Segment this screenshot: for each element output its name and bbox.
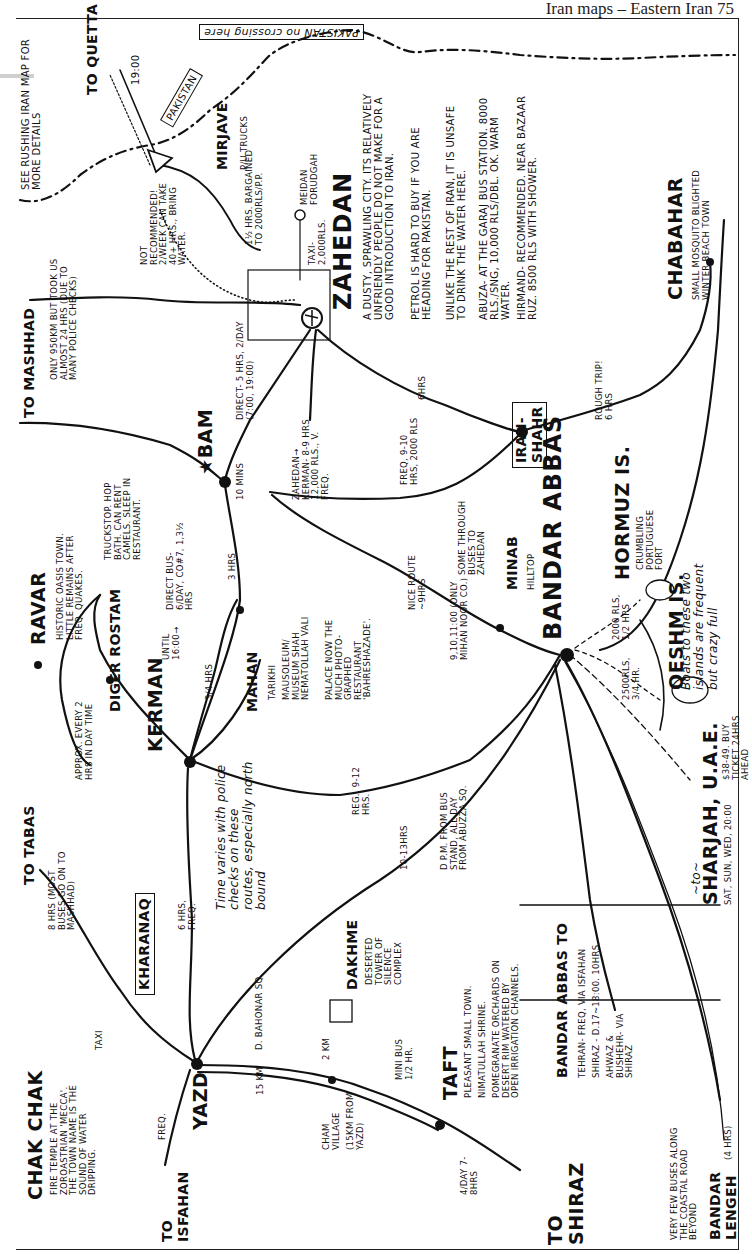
hormuz-label: HORMUZ IS. <box>612 446 633 580</box>
mashhad-note: ONLY 950KM BUT TOOK US ALMOST 24 HRS (DU… <box>50 250 79 380</box>
taft-label: TAFT <box>440 1046 461 1100</box>
town-dot-ravar <box>34 661 42 669</box>
bandar-times: 9,10,11:00 (ONLY MIHAN NOOR CO.) <box>450 570 469 660</box>
to-tabas-label: TO TABAS <box>22 805 38 885</box>
iranshahr-rough: ROUGH TRIP! 6 HRS <box>595 360 614 420</box>
sharjah-days: SAT, SUN, WED, 20:00 <box>724 804 734 905</box>
chak-chak-desc: FIRE TEMPLE AT THE ZOROASTRIAN 'MECCA'. … <box>50 1075 98 1195</box>
kerman-until: UNTIL 16:00→ <box>162 620 181 660</box>
border-post-icon <box>148 150 172 172</box>
bandar-box-shiraz: SHIRAZ - d.17~18:00. 10HRS. <box>592 942 602 1078</box>
iranshahr-6hrs: 6HRS <box>418 376 428 400</box>
town-dot-bandar-abbas <box>560 648 574 662</box>
bandar-box-tehran: TEHRAN- FREQ, VIA ISFAHAN <box>578 949 588 1078</box>
coastal-town: BANDAR LENGEH <box>708 1150 739 1240</box>
yazd-15km: 15 KM <box>256 1067 266 1095</box>
meidan-taxi: TAXI- 2,000RLS. <box>308 205 327 265</box>
kerman-mahan-time: 3/4 HRS <box>205 664 215 700</box>
dakhme-walk: 2 KM <box>322 1038 332 1060</box>
mahan-bam-time: 3 HRS <box>228 553 238 580</box>
chak-chak-taxi: TAXI <box>95 1030 105 1050</box>
diger-rostam-label: DIGER ROSTAM <box>108 589 124 712</box>
mahan-item-2: MAUSOLEUM/ MUSEUM SHAH NEMATOLLAH VALI <box>282 610 311 700</box>
cham-village-label: CHAM VILLAGE <box>322 1090 341 1150</box>
train-note: NOT RECOMMENDED! 2/WEEK CAN TAKE 40+ HRS… <box>140 170 188 265</box>
town-dot-cham <box>328 1076 336 1084</box>
town-dot-mahan <box>236 606 244 614</box>
mahan-label: MAHAN <box>245 651 261 712</box>
hormuz-desc: CRUMBLING PORTUGUESE FORT <box>636 500 665 570</box>
police-note: Time varies with police checks on these … <box>215 760 269 910</box>
tabas-note: 8 HRS (MOST BUSES GO ON TO MASHHAD) <box>48 840 77 930</box>
bandar-abbas-label: BANDAR ABBAS <box>540 415 567 640</box>
through-buses: SOME THROUGH BUSES TO ZAHEDAN <box>458 495 487 575</box>
taft-minibus: MINI BUS 1/2 HR. <box>395 1030 414 1080</box>
to-shiraz-label: TO SHIRAZ <box>545 1185 588 1245</box>
chabahar-desc: SMALL MOSQUITO BLIGHTED WINTER BEACH TOW… <box>692 140 711 300</box>
town-dot-taft <box>435 1120 445 1130</box>
kerman-approx: APPROX. EVERY 2 HRS IN DAY TIME <box>75 700 94 780</box>
taft-desc-2: NIMATULLAH SHRINE. <box>478 1001 488 1098</box>
kharanaq-kerman-time: 6 HRS, FREQ. <box>178 890 197 930</box>
bandar-box-ahwaz: AHWAZ & BUSHEHR- VIA SHIRAZ <box>606 988 635 1078</box>
pakistan-border-label: PAKISTAN no crossing here <box>199 24 364 40</box>
zahedan-hotel-abuza: ABUZA- AT THE GARAJ BUS STATION. 8000 RL… <box>478 90 512 320</box>
quetta-label: TO QUETTA <box>85 4 101 95</box>
cham-village-desc: (15KM FROM YAZD) <box>346 1090 365 1150</box>
meidan-label: MEIDAN FORUDGAH <box>300 160 319 205</box>
bam-label: ★BAM <box>195 409 216 475</box>
zahedan-desc-1: A DUSTY, SPRAWLING CITY. ITS RELATIVELY … <box>362 90 396 320</box>
meidan-dot <box>295 210 305 220</box>
yazd-label: YAZD <box>190 1072 211 1130</box>
reg-hours: REG., 9-12 HRS. <box>352 760 371 815</box>
qeshm-ferry: 2500RLS, 3/4 HR. <box>622 640 641 700</box>
hormuz-ferry: 2000 RLS, 1/2 HRS <box>612 580 631 640</box>
star-icon: ★ <box>195 458 216 475</box>
mirjave-cost: 1½ HRS. BARGAINED TO 2000RLS/P.P. <box>245 140 264 245</box>
bandar-box-title: BANDAR ABBAS TO <box>555 923 571 1078</box>
sharjah-label: SHARJAH, U.A.E. <box>700 722 721 905</box>
town-dot-minab <box>496 624 504 632</box>
boats-note: Boats to these two islands are frequent … <box>680 550 720 690</box>
dakhme-desc: DESERTED TOWER OF SILENCE COMPLEX <box>365 905 403 985</box>
iranshahr-freq: FREQ, 9-10 HRS, 2000 RLS <box>400 415 419 485</box>
bandar-pm: d P.M. FROM BUS STAND, ALL DAY FROM ABUZ… <box>440 780 469 870</box>
pakistan-label: PAKISTAN <box>304 26 359 39</box>
zahedan-desc-2: PETROL IS HARD TO BUY IF YOU ARE HEADING… <box>410 90 432 320</box>
zahedan-kerman-note: ZAHEDAN→ KERMAN- 8-9 HRS 12,000 RLS., V.… <box>292 410 330 500</box>
zahedan-hotel-hirmand: HIRMAND- RECOMMENDED. NEAR BAZAAR RUZ. 8… <box>516 90 538 320</box>
taft-desc-1: PLEASANT SMALL TOWN. <box>464 985 474 1098</box>
bam-direct: DIRECT- 5 HRS, 2/DAY (7:00, 19:00) <box>236 310 255 420</box>
sharjah-price: $38-49. BUY TICKET 24hrs AHEAD <box>722 690 751 780</box>
ravar-desc: HISTORIC OASIS TOWN. LITTLE REMAINS AFTE… <box>56 510 85 640</box>
zahedan-label: ZAHEDAN <box>330 172 357 310</box>
nice-route: NICE ROUTE ~9HRS <box>408 540 427 610</box>
mahan-item-3: PALACE NOW THE MUCH PHOTO- GRAPHED RESTA… <box>325 610 373 700</box>
coastal-hrs: (4 HRS) <box>724 1125 734 1160</box>
mirjave-label: MIRJAVE <box>215 102 231 170</box>
shiraz-freq: 4/DAY 7-8HRS <box>460 1155 479 1195</box>
town-dot-bam <box>219 476 231 488</box>
mahan-item-1: TARIKHI <box>268 665 278 700</box>
coastal-note: VERY FEW BUSES ALONG THE COASTAL ROAD BE… <box>670 1120 699 1240</box>
bahonar-sq: d. BAHONAR SQ. <box>255 974 265 1050</box>
to-isfahan-label: TO ISFAHAN <box>160 1182 191 1242</box>
dakhme-icon <box>330 1000 352 1022</box>
chabahar-label: CHABAHAR <box>665 177 686 300</box>
ravar-label: RAVAR <box>28 572 49 645</box>
town-dot-yazd <box>191 1058 203 1070</box>
kerman-label: KERMAN <box>145 657 166 752</box>
minab-hilltop: HILLTOP <box>527 554 537 590</box>
to-mashhad-label: TO MASHHAD <box>22 308 38 418</box>
yazd-bandar-hours: 10-13HRS <box>400 825 410 870</box>
bam-truckstop: TRUCKSTOP. HOP BATH. CAN RENT CAMELS. SL… <box>104 470 142 560</box>
quetta-time: 19:00 <box>130 55 141 85</box>
taft-desc-3: POMEGRANATE ORCHARDS ON DESERT RIM WATER… <box>492 958 521 1098</box>
zahedan-desc-3: UNLIKE THE REST OF IRAN, IT IS UNSAFE TO… <box>445 90 467 320</box>
no-crossing-note: no crossing here <box>204 26 300 39</box>
kerman-direct-bus: DIRECT BUS- 6/DAY, CO#7, 1,3½ HRS <box>166 520 195 610</box>
minab-label: MINAB <box>505 536 521 590</box>
town-dot-kerman <box>184 756 196 768</box>
chak-chak-label: CHAK CHAK <box>25 1070 46 1200</box>
kharanaq-label: KHARANAQ <box>135 893 155 995</box>
